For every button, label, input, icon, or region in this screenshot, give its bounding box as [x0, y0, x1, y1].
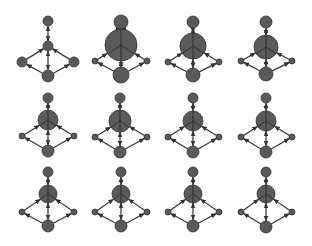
edge-left-center — [97, 199, 113, 210]
node-bottom — [259, 67, 273, 81]
edge-bottom-right — [128, 62, 144, 71]
edge-bottom-right — [53, 137, 71, 148]
edge-right-center — [135, 53, 145, 59]
edge-bottom-right — [271, 138, 289, 149]
node-left — [92, 134, 98, 140]
node-bottom — [114, 146, 126, 158]
edge-bottom-left — [25, 213, 43, 223]
edge-bottom-right — [198, 213, 216, 223]
network-graph — [165, 16, 222, 82]
node-left — [92, 58, 98, 64]
node-top — [260, 16, 272, 28]
edge-bottom-left — [171, 139, 188, 149]
edge-bottom-left — [244, 62, 260, 70]
node-top — [114, 15, 128, 29]
network-graph — [19, 167, 77, 232]
graph-grid-canvas — [0, 0, 312, 246]
node-top — [43, 93, 53, 103]
node-right — [69, 57, 79, 67]
edge-bottom-right — [53, 64, 69, 73]
node-left — [19, 133, 25, 139]
edge-bottom-left — [98, 139, 115, 149]
node-top — [43, 16, 53, 26]
node-left — [165, 134, 171, 140]
nodes — [165, 167, 222, 232]
node-top — [188, 167, 198, 177]
edge-bottom-left — [98, 213, 116, 223]
nodes — [92, 167, 150, 232]
edge-bottom-right — [125, 138, 144, 149]
node-bottom — [187, 220, 199, 232]
edge-bottom-right — [271, 213, 289, 224]
nodes — [238, 93, 295, 158]
edge-left-center — [171, 53, 183, 60]
node-right — [144, 134, 150, 140]
edge-right-center — [128, 199, 144, 210]
nodes — [165, 16, 222, 82]
nodes — [92, 15, 150, 83]
node-right — [216, 209, 222, 215]
edge-bottom-left — [244, 214, 261, 224]
node-top — [261, 93, 271, 103]
nodes — [165, 93, 222, 158]
graphs-layer — [17, 15, 295, 233]
network-graph — [92, 93, 150, 158]
node-bottom — [113, 67, 129, 83]
edge-left-center — [244, 126, 258, 135]
edge-left-center — [24, 199, 40, 210]
node-left — [19, 209, 25, 215]
edge-bottom-right — [199, 63, 216, 72]
nodes — [238, 167, 295, 233]
node-bottom — [42, 70, 54, 82]
node-left — [238, 134, 244, 140]
node-bottom — [260, 221, 272, 233]
node-top — [43, 167, 53, 177]
edge-left-center — [98, 53, 108, 59]
edge-right-center — [55, 199, 71, 210]
node-right — [71, 133, 77, 139]
edge-bottom-left — [244, 139, 261, 149]
network-graph — [238, 16, 295, 81]
edge-left-center — [170, 199, 185, 210]
edge-left-center — [244, 53, 256, 60]
edge-bottom-left — [25, 137, 43, 148]
network-graph — [92, 167, 150, 232]
node-right — [289, 209, 295, 215]
node-left — [238, 58, 244, 64]
node-right — [71, 209, 77, 215]
edge-bottom-right — [272, 62, 289, 71]
edge-right-center — [200, 199, 216, 210]
network-graph — [238, 167, 295, 233]
network-graph — [165, 167, 222, 232]
node-top — [188, 93, 198, 103]
edge-right-center — [275, 126, 290, 135]
node-right — [144, 58, 150, 64]
network-graph — [165, 93, 222, 158]
node-top — [187, 16, 199, 28]
nodes — [238, 16, 295, 81]
node-bottom — [187, 146, 199, 158]
network-graph — [92, 15, 150, 83]
network-graph — [19, 93, 77, 157]
node-bottom — [115, 220, 127, 232]
nodes — [19, 93, 77, 157]
node-top — [261, 167, 271, 177]
node-right — [216, 134, 222, 140]
node-right — [289, 58, 295, 64]
node-bottom — [42, 220, 54, 232]
node-center — [43, 41, 53, 51]
node-bottom — [42, 145, 54, 157]
edge-bottom-left — [171, 63, 187, 71]
edge-right-center — [204, 53, 216, 61]
edge-right-center — [277, 53, 290, 60]
edge-bottom-left — [26, 64, 42, 73]
node-left — [238, 209, 244, 215]
node-right — [144, 209, 150, 215]
network-graph — [17, 16, 79, 82]
edge-left-center — [243, 199, 258, 210]
edge-bottom-right — [126, 213, 144, 223]
node-top — [115, 93, 125, 103]
node-left — [92, 209, 98, 215]
edge-right-center — [129, 127, 144, 136]
edge-bottom-left — [98, 62, 114, 71]
